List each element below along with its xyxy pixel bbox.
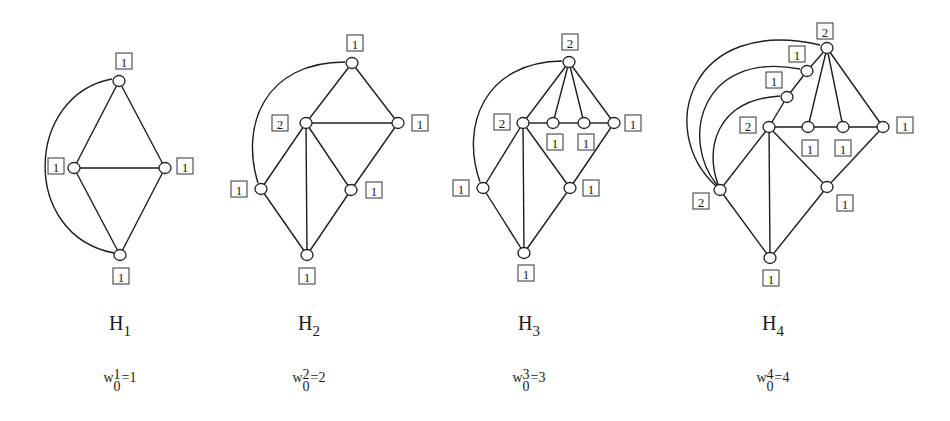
graph-edge	[769, 127, 827, 187]
graph-edge	[306, 123, 307, 255]
node-weight-label: 1	[583, 180, 599, 197]
graph-edge	[306, 63, 352, 123]
graph-figure: 1111 121111 22111111 2112111211	[0, 0, 950, 421]
graph-node-circle	[547, 118, 559, 129]
graph-edge	[483, 123, 523, 188]
weight-value: 1	[304, 270, 311, 285]
weight-caption-h3: w30=3	[512, 367, 545, 391]
caption-name: H	[109, 312, 123, 334]
node-weight-label: 1	[347, 35, 363, 52]
graph-edge	[351, 123, 398, 190]
graph-caption-h1: H1	[109, 312, 131, 340]
graph-edge	[261, 123, 306, 189]
graph-caption-h3: H3	[518, 312, 540, 340]
graph-edge	[770, 187, 827, 258]
weight-value: 2	[822, 25, 829, 40]
graph-node-circle	[578, 118, 590, 129]
graph-node-circle	[564, 183, 576, 194]
graph-node-circle	[821, 182, 833, 193]
graph-node-circle	[877, 122, 889, 133]
weight-value: 2	[567, 36, 574, 51]
graph-edge	[352, 63, 398, 123]
node-weight-label: 2	[740, 117, 756, 134]
node-weight-label: 1	[625, 115, 641, 132]
graph-edge	[120, 168, 165, 255]
graph-edge	[769, 127, 770, 258]
weight-value: 2	[745, 119, 752, 134]
weight-value: 1	[118, 270, 125, 285]
weight-value: =4	[775, 370, 790, 385]
weight-value: 1	[902, 119, 909, 134]
node-weight-label: 1	[299, 268, 315, 285]
graph-h3: 22111111	[453, 34, 641, 282]
graph-edge	[307, 190, 351, 255]
node-weight-label: 1	[177, 158, 193, 175]
node-weight-label: 1	[802, 140, 818, 157]
node-weight-label: 1	[763, 270, 779, 287]
graph-h1: 1111	[45, 53, 193, 285]
graph-node-circle	[801, 66, 813, 77]
node-weight-label: 1	[897, 117, 913, 134]
graph-node-circle	[159, 163, 171, 174]
graph-node-circle	[392, 118, 404, 129]
graph-edge	[483, 188, 524, 253]
caption-subscript: 2	[312, 323, 320, 339]
graph-edge	[74, 168, 120, 255]
graph-node-circle	[714, 185, 726, 196]
graph-edge	[261, 189, 307, 255]
graph-edge	[524, 188, 570, 253]
weight-subscript: 0	[523, 381, 530, 393]
caption-name: H	[762, 312, 776, 334]
weight-subscript: 0	[303, 381, 310, 393]
graph-node-circle	[518, 248, 530, 259]
caption-subscript: 1	[123, 323, 131, 339]
graph-caption-h2: H2	[298, 312, 320, 340]
weight-value: 1	[807, 142, 814, 157]
node-weight-label: 1	[547, 134, 563, 151]
graph-node-circle	[301, 250, 313, 261]
graph-edge	[523, 123, 524, 253]
weight-value: 1	[794, 48, 801, 63]
weight-value: 1	[458, 182, 465, 197]
graph-node-circle	[837, 122, 849, 133]
graph-node-circle	[802, 122, 814, 133]
graph-node-circle	[608, 118, 620, 129]
weight-symbol: w	[103, 370, 113, 385]
node-weight-label: 2	[817, 23, 833, 40]
caption-name: H	[298, 312, 312, 334]
graph-node-circle	[517, 118, 529, 129]
graph-node-circle	[477, 183, 489, 194]
weight-subscript: 0	[114, 381, 121, 393]
node-weight-label: 1	[412, 115, 428, 132]
graph-h4: 2112111211	[687, 23, 913, 287]
graph-edge	[720, 127, 769, 190]
node-weight-label: 2	[693, 193, 709, 210]
graph-edge	[720, 190, 770, 258]
weight-value: 1	[552, 136, 559, 151]
caption-name: H	[518, 312, 532, 334]
node-weight-label: 1	[231, 181, 247, 198]
graph-node-circle	[781, 92, 793, 103]
graph-node-circle	[346, 58, 358, 69]
graph-node-circle	[113, 76, 125, 87]
weight-value: 1	[121, 55, 128, 70]
node-weight-label: 1	[113, 268, 129, 285]
node-weight-label: 2	[494, 114, 510, 131]
graph-node-circle	[300, 118, 312, 129]
graph-node-circle	[68, 163, 80, 174]
graph-node-circle	[763, 122, 775, 133]
graph-edge	[569, 62, 614, 123]
node-weight-label: 1	[766, 72, 782, 89]
graph-edge	[553, 62, 569, 123]
weight-value: =1	[122, 370, 137, 385]
weight-value: 1	[523, 267, 530, 282]
graph-edge	[119, 81, 165, 168]
weight-caption-h4: w40=4	[756, 367, 789, 391]
node-weight-label: 1	[48, 158, 64, 175]
weight-value: =3	[531, 370, 546, 385]
weight-value: 1	[842, 197, 849, 212]
weight-value: 1	[417, 117, 424, 132]
weight-value: =2	[311, 370, 326, 385]
graph-edge	[523, 123, 570, 188]
weight-value: 1	[371, 184, 378, 199]
